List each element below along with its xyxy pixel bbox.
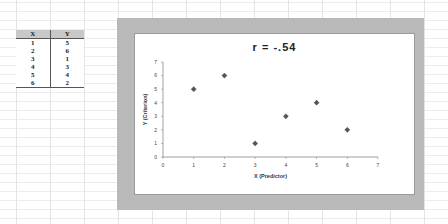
data-point-diamond-icon — [191, 87, 196, 92]
cell-x[interactable]: 5 — [16, 71, 50, 79]
cell-y[interactable]: 4 — [50, 71, 84, 79]
x-tick-label: 0 — [162, 162, 165, 168]
cell-x[interactable]: 1 — [16, 39, 50, 48]
cell-x[interactable]: 6 — [16, 79, 50, 88]
data-point-diamond-icon — [345, 127, 350, 132]
data-point-diamond-icon — [222, 73, 227, 78]
cell-y[interactable]: 6 — [50, 47, 84, 55]
table-row: 15 — [16, 39, 84, 48]
x-tick-label: 6 — [346, 162, 349, 168]
y-tick-label: 2 — [154, 127, 157, 133]
y-tick-label: 3 — [154, 113, 157, 119]
y-axis-title: Y (Criterion) — [142, 93, 148, 125]
table-header-row: X Y — [16, 30, 84, 39]
x-tick-label: 1 — [192, 162, 195, 168]
header-y[interactable]: Y — [50, 30, 84, 39]
table-row: 31 — [16, 55, 84, 63]
x-axis-title: X (Predictor) — [254, 173, 287, 179]
y-tick-label: 0 — [154, 154, 157, 160]
y-tick-label: 6 — [154, 72, 157, 78]
y-tick-label: 4 — [154, 100, 157, 106]
table-row: 43 — [16, 63, 84, 71]
y-tick-label: 7 — [154, 59, 157, 65]
cell-y[interactable]: 5 — [50, 39, 84, 48]
header-x[interactable]: X — [16, 30, 50, 39]
y-tick-label: 1 — [154, 140, 157, 146]
x-tick-label: 7 — [377, 162, 380, 168]
y-tick-label: 5 — [154, 86, 157, 92]
x-tick-label: 4 — [284, 162, 287, 168]
cell-y[interactable]: 1 — [50, 55, 84, 63]
chart-plot-area[interactable]: r = -.54 0123456701234567X (Predictor)Y … — [134, 33, 415, 195]
cell-y[interactable]: 2 — [50, 79, 84, 88]
cell-x[interactable]: 3 — [16, 55, 50, 63]
x-tick-label: 2 — [223, 162, 226, 168]
cell-x[interactable]: 4 — [16, 63, 50, 71]
cell-y[interactable]: 3 — [50, 63, 84, 71]
x-tick-label: 5 — [315, 162, 318, 168]
chart-object[interactable]: r = -.54 0123456701234567X (Predictor)Y … — [117, 18, 424, 210]
data-point-diamond-icon — [253, 141, 258, 146]
data-point-diamond-icon — [283, 114, 288, 119]
table-row: 26 — [16, 47, 84, 55]
scatter-plot: 0123456701234567X (Predictor)Y (Criterio… — [135, 34, 414, 194]
data-point-diamond-icon — [314, 100, 319, 105]
cell-x[interactable]: 2 — [16, 47, 50, 55]
table-row: 54 — [16, 71, 84, 79]
x-tick-label: 3 — [254, 162, 257, 168]
table-row: 62 — [16, 79, 84, 88]
xy-data-table: X Y 15 26 31 43 54 62 — [16, 30, 84, 88]
